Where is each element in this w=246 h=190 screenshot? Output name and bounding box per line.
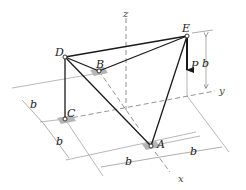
member-da: [65, 57, 151, 146]
dimensions: b b b b b: [22, 30, 222, 168]
member-ea: [151, 36, 187, 146]
grid-line: [187, 96, 229, 152]
z-axis-label: z: [122, 8, 129, 19]
dim-left-upper-label: b: [30, 98, 37, 111]
dim-left-lower-label: b: [56, 135, 63, 148]
member-be: [99, 36, 187, 71]
x-axis-upper: [99, 71, 140, 130]
joint-labels: D E B C A: [54, 22, 190, 151]
dim-bottom-left-label: b: [125, 155, 132, 168]
grid-line: [12, 73, 99, 88]
label-e: E: [181, 22, 190, 35]
joint-a: [149, 144, 153, 148]
dim-height-label: b: [202, 57, 209, 70]
truss-diagram: z y x P D E B C A: [0, 0, 246, 190]
label-a: A: [156, 138, 165, 151]
label-d: D: [54, 46, 64, 59]
label-c: C: [67, 107, 76, 120]
label-b: B: [95, 58, 104, 71]
dim-ext: [192, 30, 213, 33]
grid-line: [65, 119, 103, 176]
y-axis: [65, 91, 215, 119]
member-db: [65, 57, 99, 71]
axes: z y x: [65, 8, 225, 184]
x-axis-label: x: [178, 173, 184, 184]
y-axis-label: y: [218, 85, 225, 96]
load-label: P: [190, 59, 199, 72]
dim-bottom-right-label: b: [190, 145, 197, 158]
x-axis-lower: [155, 152, 170, 172]
load-p: P: [187, 38, 199, 72]
